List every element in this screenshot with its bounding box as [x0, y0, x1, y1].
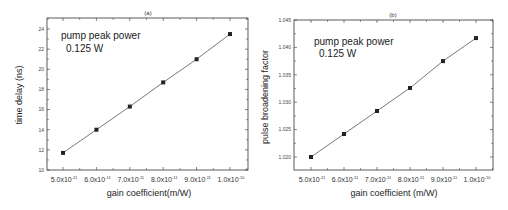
x-tick-label: 8.0x10-11	[398, 175, 425, 183]
data-point-marker	[94, 128, 98, 132]
y-axis-label-a: time delay (ns)	[14, 65, 24, 124]
figure: (a) 1012141618202224 5.0x10-116.0x10-117…	[0, 0, 508, 210]
data-point-marker	[309, 155, 313, 159]
annotation-line1-a: pump peak power	[61, 30, 141, 41]
y-tick-label: 24	[38, 26, 44, 32]
y-tick-label: 1.020	[278, 154, 291, 160]
x-tick-label: 9.0x10-11	[431, 175, 458, 183]
data-point-marker	[128, 105, 132, 109]
x-tick-label: 6.0x10-11	[332, 175, 359, 183]
data-point-marker	[408, 86, 412, 90]
x-tick-label: 6.0x10-11	[84, 175, 111, 183]
y-tick-label: 22	[38, 46, 44, 52]
data-point-marker	[228, 32, 232, 36]
x-tick-label: 1.0x10-10	[464, 175, 492, 183]
panel-title-a: (a)	[144, 10, 151, 16]
data-point-marker	[195, 57, 199, 61]
data-point-marker	[161, 80, 165, 84]
panel-title-b: (b)	[389, 12, 396, 18]
y-tick-label: 20	[38, 66, 44, 72]
y-tick-label: 18	[38, 86, 44, 92]
y-tick-label: 1.035	[278, 72, 291, 78]
y-tick-label: 1.040	[278, 44, 291, 50]
x-axis-label-b: gain coefficient (m/W)	[351, 188, 438, 198]
x-tick-label: 9.0x10-11	[184, 175, 211, 183]
y-tick-label: 12	[38, 147, 44, 153]
annotation-line2-b: 0.125 W	[319, 48, 357, 59]
y-tick-label: 1.030	[278, 99, 291, 105]
x-tick-label: 8.0x10-11	[151, 175, 178, 183]
y-tick-label: 14	[38, 127, 44, 133]
x-tick-label: 7.0x10-11	[365, 175, 392, 183]
data-point-marker	[375, 109, 379, 113]
x-tick-label: 1.0x10-10	[218, 175, 246, 183]
y-axis-label-b: pulse broadening factor	[260, 50, 270, 144]
annotation-line2-a: 0.125 W	[66, 43, 104, 54]
x-tick-label: 5.0x10-11	[51, 175, 78, 183]
data-point-marker	[342, 132, 346, 136]
x-tick-label: 7.0x10-11	[118, 175, 145, 183]
data-point-marker	[441, 59, 445, 63]
chart-panel-a: (a) 1012141618202224 5.0x10-116.0x10-117…	[14, 10, 248, 198]
x-tick-label: 5.0x10-11	[299, 175, 326, 183]
x-axis-label-a: gain coefficient(m/W)	[107, 188, 191, 198]
y-tick-label: 16	[38, 106, 44, 112]
annotation-line1-b: pump peak power	[314, 36, 394, 47]
y-tick-label: 1.025	[278, 126, 291, 132]
data-point-marker	[61, 151, 65, 155]
y-tick-label: 1.045	[278, 17, 291, 23]
y-tick-label: 10	[38, 167, 44, 173]
data-point-marker	[474, 36, 478, 40]
chart-panel-b: (b) 1.0201.0251.0301.0351.0401.045 5.0x1…	[260, 12, 493, 198]
